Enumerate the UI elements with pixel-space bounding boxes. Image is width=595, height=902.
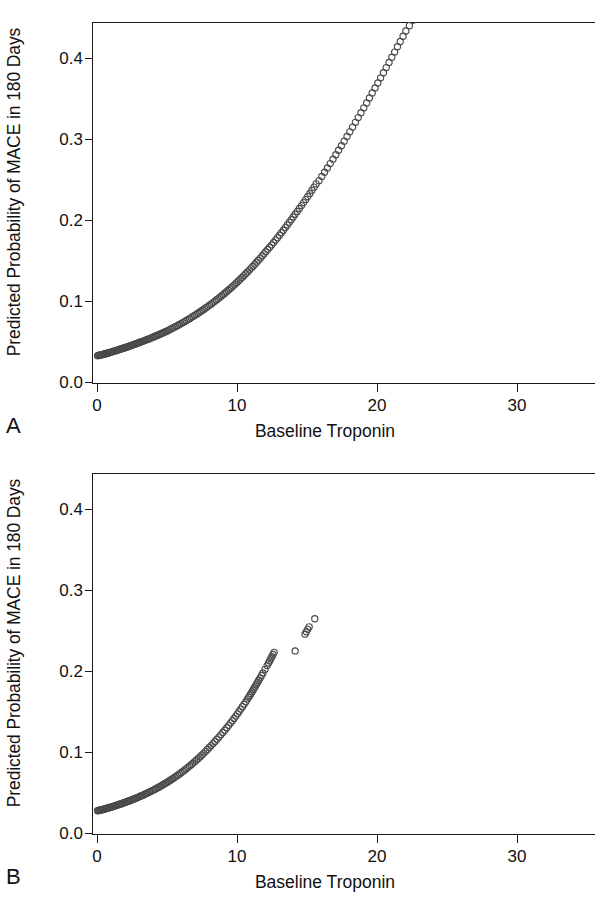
panel-b-xtick-label-2: 20	[352, 847, 402, 866]
panel-b-xtick-0	[97, 835, 98, 843]
panel-b-xtick-2	[377, 835, 378, 843]
panel-a-x-axis-title: Baseline Troponin	[92, 421, 558, 442]
panel-a-letter: A	[6, 414, 21, 438]
panel-a-plot-frame	[92, 22, 595, 384]
panel-a-xtick-3	[517, 384, 518, 392]
panel-b-y-axis-title: Predicted Probability of MACE in 180 Day…	[4, 453, 34, 833]
panel-b-ytick-label-2: 0.2	[35, 663, 83, 680]
panel-b-ytick-0	[85, 833, 93, 834]
panel-a-ytick-label-4: 0.4	[35, 50, 83, 67]
panel-b-xtick-label-1: 10	[212, 847, 262, 866]
panel-a-xtick-0	[97, 384, 98, 392]
panel-b-xtick-1	[237, 835, 238, 843]
panel-b-ytick-1	[85, 752, 93, 753]
panel-a-xtick-label-2: 20	[352, 396, 402, 415]
panel-a-ytick-label-1: 0.1	[35, 293, 83, 310]
panel-b-plot-frame	[92, 473, 595, 835]
panel-b-xtick-label-0: 0	[72, 847, 122, 866]
panel-a-ytick-0	[85, 382, 93, 383]
panel-b-ytick-label-4: 0.4	[35, 501, 83, 518]
panel-a-xtick-1	[237, 384, 238, 392]
panel-a-ytick-label-0: 0.0	[35, 374, 83, 391]
panel-a-xtick-2	[377, 384, 378, 392]
panel-a-xtick-label-1: 10	[212, 396, 262, 415]
panel-b-letter: B	[6, 865, 21, 889]
panel-a: Predicted Probability of MACE in 180 Day…	[0, 0, 595, 451]
panel-a-ytick-3	[85, 139, 93, 140]
panel-a-ytick-label-3: 0.3	[35, 131, 83, 148]
panel-a-ytick-4	[85, 58, 93, 59]
panel-b-ytick-label-0: 0.0	[35, 825, 83, 842]
panel-b-x-axis-title: Baseline Troponin	[92, 872, 558, 893]
panel-a-y-axis-title: Predicted Probability of MACE in 180 Day…	[4, 2, 34, 382]
panel-b-ytick-3	[85, 590, 93, 591]
panel-b-ytick-4	[85, 509, 93, 510]
panel-b-xtick-3	[517, 835, 518, 843]
panel-b: Predicted Probability of MACE in 180 Day…	[0, 451, 595, 902]
panel-a-xtick-label-0: 0	[72, 396, 122, 415]
panel-b-xtick-label-3: 30	[492, 847, 542, 866]
panel-a-ytick-1	[85, 301, 93, 302]
panel-a-xtick-label-3: 30	[492, 396, 542, 415]
mace-troponin-figure: Predicted Probability of MACE in 180 Day…	[0, 0, 595, 902]
panel-b-ytick-2	[85, 671, 93, 672]
panel-b-ytick-label-3: 0.3	[35, 582, 83, 599]
panel-a-ytick-label-2: 0.2	[35, 212, 83, 229]
panel-a-ytick-2	[85, 220, 93, 221]
panel-b-ytick-label-1: 0.1	[35, 744, 83, 761]
